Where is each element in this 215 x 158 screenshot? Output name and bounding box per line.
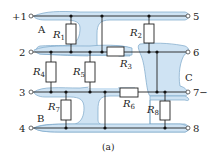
resistor-r3 [107, 47, 124, 56]
resistor-label-r2: R2 [129, 27, 142, 40]
resistor-r7 [61, 100, 71, 120]
resistor-label-r6: R6 [122, 98, 136, 111]
terminal-label-4: 4 [19, 123, 25, 134]
terminal-label-6: 6 [193, 47, 199, 58]
region-c [138, 43, 188, 96]
terminal-4 [29, 126, 33, 130]
resistor-label-r1: R1 [52, 29, 65, 42]
region-label-b: B [37, 113, 44, 124]
resistor-r4 [46, 62, 56, 82]
resistor-r2 [144, 24, 154, 43]
terminal-label-1: +1 [12, 11, 27, 22]
terminal-label-8: 8 [193, 123, 199, 134]
figure-caption: (a) [102, 142, 114, 152]
terminal-1 [29, 14, 33, 18]
terminal-label-7: 7− [193, 87, 208, 98]
resistor-r6 [120, 88, 138, 97]
terminal-label-2: 2 [19, 47, 25, 58]
resistor-label-r7: R7 [47, 101, 60, 114]
terminal-8 [186, 126, 190, 130]
resistor-r8 [160, 101, 170, 120]
region-label-a: A [37, 24, 46, 35]
resistor-label-r8: R8 [146, 104, 159, 117]
terminal-5 [186, 14, 190, 18]
terminal-7 [186, 90, 190, 94]
terminal-3 [29, 90, 33, 94]
circuit-diagram: +1 2 3 4 5 6 7− 8 A B C R1 R2 R3 R4 R5 R… [0, 0, 215, 158]
terminal-label-5: 5 [193, 11, 199, 22]
terminal-6 [186, 50, 190, 54]
resistor-label-r5: R5 [72, 66, 85, 79]
terminal-label-3: 3 [19, 87, 25, 98]
resistor-r1 [66, 24, 76, 44]
resistor-r5 [85, 62, 95, 82]
region-label-c: C [185, 72, 193, 83]
terminal-2 [29, 50, 33, 54]
resistor-label-r4: R4 [32, 66, 46, 79]
